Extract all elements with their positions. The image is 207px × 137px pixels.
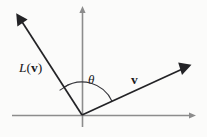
vector-angle-diagram: L(v) θ v [0, 0, 207, 137]
y-axis-arrowhead [79, 6, 85, 13]
vector-v-arrowhead [178, 63, 191, 75]
label-Lv-vector: v [31, 60, 38, 75]
label-Lv-close-paren: ) [38, 60, 43, 75]
label-angle-theta: θ [88, 73, 94, 86]
vectors-group [16, 13, 191, 115]
label-transformed-vector: L(v) [19, 61, 42, 75]
vector-Lv-arrowhead [16, 13, 27, 26]
label-Lv-prefix: L [19, 60, 27, 75]
x-axis-arrowhead [189, 112, 196, 118]
label-vector-v: v [131, 73, 138, 87]
